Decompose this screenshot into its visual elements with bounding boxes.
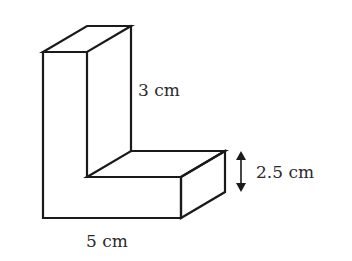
l-shape-prism-diagram: 3 cm 2.5 cm 5 cm xyxy=(0,0,352,261)
column-top-face xyxy=(43,26,131,52)
height-label: 3 cm xyxy=(138,80,180,100)
thickness-label: 2.5 cm xyxy=(256,162,314,182)
front-face xyxy=(43,52,181,218)
width-label: 5 cm xyxy=(86,231,128,251)
double-arrow-icon xyxy=(236,151,246,192)
block-end-face xyxy=(181,151,225,218)
